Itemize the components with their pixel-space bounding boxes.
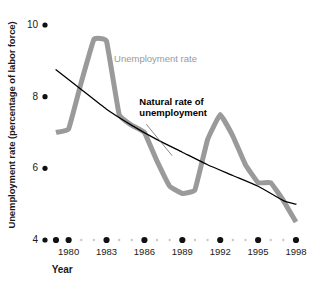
x-minor-tick-dot bbox=[270, 239, 272, 241]
x-minor-tick-dot bbox=[168, 239, 170, 241]
series-label-natural-rate-line1: Natural rate of bbox=[139, 96, 207, 107]
y-tick-dot bbox=[42, 237, 47, 242]
x-major-tick-dot bbox=[141, 237, 147, 243]
x-minor-tick-dot bbox=[282, 239, 284, 241]
y-tick-dot bbox=[42, 22, 47, 27]
x-major-tick-dot bbox=[179, 237, 185, 243]
y-tick-dot bbox=[42, 166, 47, 171]
x-minor-tick-dot bbox=[93, 239, 95, 241]
x-major-tick-dot bbox=[217, 237, 223, 243]
x-minor-tick-dot bbox=[194, 239, 196, 241]
series-label-unemployment-rate: Unemployment rate bbox=[114, 53, 197, 64]
x-major-tick-dot bbox=[66, 237, 72, 243]
x-minor-tick-dot bbox=[244, 239, 246, 241]
x-minor-tick-dot bbox=[118, 239, 120, 241]
series-label-natural-rate: Natural rate of unemployment bbox=[139, 96, 207, 118]
unemployment-rate-chart: Unemployment rate (percentage of labor f… bbox=[0, 0, 312, 286]
x-major-tick-dot bbox=[293, 237, 299, 243]
x-minor-tick-dot bbox=[206, 239, 208, 241]
x-major-tick-dot bbox=[255, 237, 261, 243]
x-minor-tick-dot bbox=[156, 239, 158, 241]
plot-area bbox=[0, 0, 312, 286]
x-major-tick-dot bbox=[103, 237, 109, 243]
series-label-natural-rate-line2: unemployment bbox=[139, 107, 207, 118]
x-axis-title: Year bbox=[52, 264, 73, 275]
unemployment-rate-line bbox=[56, 38, 296, 222]
x-minor-tick-dot bbox=[80, 239, 82, 241]
y-tick-dot bbox=[42, 94, 47, 99]
x-minor-tick-dot bbox=[131, 239, 133, 241]
x-axis-origin-dot bbox=[53, 237, 59, 243]
x-minor-tick-dot bbox=[232, 239, 234, 241]
